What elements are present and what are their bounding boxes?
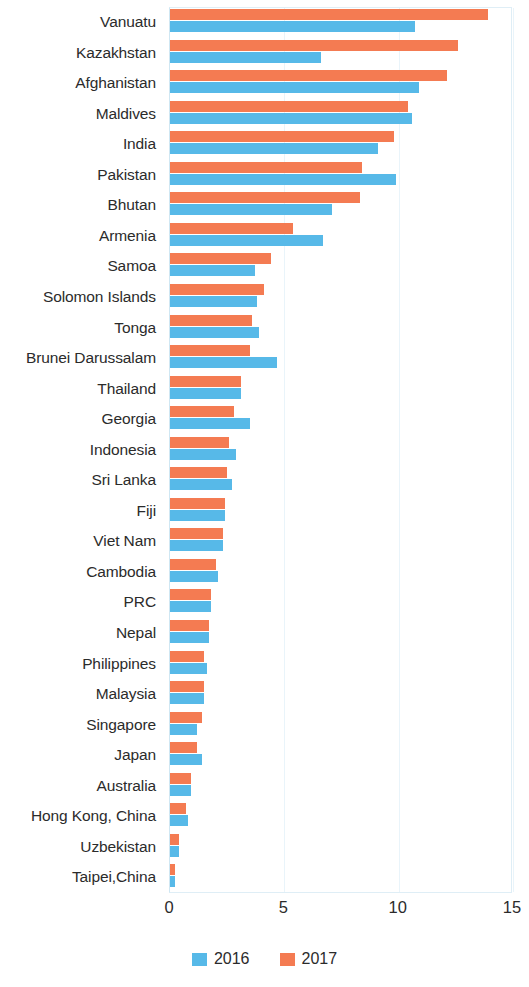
bar-2016 [170, 479, 232, 490]
category-label: Afghanistan [75, 68, 156, 99]
category-label: Samoa [107, 251, 156, 282]
bar-group [170, 283, 511, 314]
category-label: Vanuatu [100, 7, 156, 38]
bar-2017 [170, 773, 191, 784]
category-label: Viet Nam [93, 526, 156, 557]
category-label: Philippines [82, 649, 156, 680]
bar-2016 [170, 327, 259, 338]
bar-2016 [170, 754, 202, 765]
bar-2016 [170, 632, 209, 643]
chart-legend: 20162017 [0, 950, 529, 968]
bar-group [170, 191, 511, 222]
bar-2017 [170, 437, 229, 448]
bar-group [170, 405, 511, 436]
bar-chart: VanuatuKazakhstanAfghanistanMaldivesIndi… [0, 0, 529, 987]
bar-2016 [170, 174, 396, 185]
bar-2016 [170, 418, 250, 429]
bar-2017 [170, 651, 204, 662]
bar-2017 [170, 70, 447, 81]
bar-group [170, 863, 511, 894]
category-label: Japan [114, 740, 156, 771]
bar-2016 [170, 876, 175, 887]
bar-2017 [170, 9, 488, 20]
bar-group [170, 650, 511, 681]
bar-2016 [170, 540, 223, 551]
plot-area [169, 7, 512, 893]
x-axis-tick-label: 10 [388, 898, 406, 917]
bar-2016 [170, 21, 415, 32]
bar-2017 [170, 40, 458, 51]
bar-2017 [170, 620, 209, 631]
category-label: Indonesia [90, 435, 156, 466]
bar-group [170, 222, 511, 253]
category-label: Fiji [137, 496, 156, 527]
bar-2017 [170, 406, 234, 417]
legend-label: 2016 [214, 950, 250, 968]
x-axis-tick-label: 5 [279, 898, 288, 917]
bar-2016 [170, 601, 211, 612]
bar-2017 [170, 315, 252, 326]
x-axis-ticks: 051015 [169, 898, 512, 924]
legend-label: 2017 [302, 950, 338, 968]
bar-2017 [170, 864, 175, 875]
category-label: Australia [97, 771, 156, 802]
bar-2017 [170, 681, 204, 692]
category-axis-labels: VanuatuKazakhstanAfghanistanMaldivesIndi… [0, 7, 163, 893]
bar-2016 [170, 449, 236, 460]
legend-item: 2016 [192, 950, 250, 968]
category-label: Brunei Darussalam [26, 343, 156, 374]
bar-2017 [170, 345, 250, 356]
x-axis-tick-label: 0 [164, 898, 173, 917]
bar-2017 [170, 162, 362, 173]
bar-2016 [170, 815, 188, 826]
bar-2017 [170, 253, 271, 264]
bar-2017 [170, 192, 360, 203]
bar-group [170, 741, 511, 772]
bar-group [170, 252, 511, 283]
bar-2016 [170, 510, 225, 521]
category-label: Thailand [97, 374, 156, 405]
bar-2016 [170, 724, 197, 735]
bar-2016 [170, 693, 204, 704]
bar-2016 [170, 113, 412, 124]
bar-group [170, 588, 511, 619]
bar-group [170, 558, 511, 589]
bar-group [170, 527, 511, 558]
category-label: Nepal [116, 618, 156, 649]
category-label: Georgia [102, 404, 156, 435]
category-label: Taipei,China [72, 862, 156, 893]
category-label: Malaysia [96, 679, 156, 710]
bar-group [170, 619, 511, 650]
bar-2017 [170, 742, 197, 753]
bar-2017 [170, 834, 179, 845]
bar-2016 [170, 204, 332, 215]
bar-group [170, 375, 511, 406]
category-label: PRC [124, 587, 156, 618]
category-label: Bhutan [107, 190, 156, 221]
category-label: Cambodia [86, 557, 156, 588]
category-label: Pakistan [97, 160, 156, 191]
bar-2017 [170, 712, 202, 723]
bar-group [170, 833, 511, 864]
category-label: Uzbekistan [80, 832, 156, 863]
bar-group [170, 711, 511, 742]
bar-2016 [170, 82, 419, 93]
bar-2016 [170, 357, 277, 368]
legend-item: 2017 [280, 950, 338, 968]
bar-2017 [170, 528, 223, 539]
bar-group [170, 100, 511, 131]
bar-2016 [170, 388, 241, 399]
bar-2016 [170, 265, 255, 276]
bar-2016 [170, 571, 218, 582]
bar-group [170, 680, 511, 711]
category-label: Maldives [96, 99, 156, 130]
bar-2016 [170, 785, 191, 796]
bar-group [170, 130, 511, 161]
bar-group [170, 69, 511, 100]
category-label: Kazakhstan [76, 38, 156, 69]
bar-2017 [170, 131, 394, 142]
category-label: Singapore [86, 710, 156, 741]
bar-2016 [170, 235, 323, 246]
bar-group [170, 772, 511, 803]
bar-2016 [170, 663, 207, 674]
